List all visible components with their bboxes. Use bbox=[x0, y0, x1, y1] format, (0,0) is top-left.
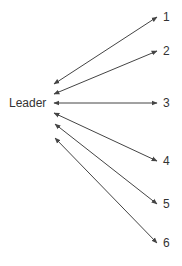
edge-leader-to-1 bbox=[54, 17, 157, 84]
node-label-5: 5 bbox=[163, 197, 170, 211]
node-label-3: 3 bbox=[163, 96, 170, 110]
node-label-6: 6 bbox=[163, 236, 170, 250]
node-label-1: 1 bbox=[163, 10, 170, 24]
node-label-4: 4 bbox=[163, 154, 170, 168]
edge-leader-to-5 bbox=[55, 124, 157, 204]
edges-group bbox=[54, 17, 157, 243]
leader-network-diagram: Leader 1 2 3 4 5 6 bbox=[0, 0, 182, 266]
leader-label: Leader bbox=[9, 96, 46, 110]
edge-leader-to-2 bbox=[54, 51, 157, 94]
node-label-2: 2 bbox=[163, 44, 170, 58]
nodes-group: 1 2 3 4 5 6 bbox=[163, 10, 170, 250]
edge-leader-to-4 bbox=[54, 113, 157, 161]
